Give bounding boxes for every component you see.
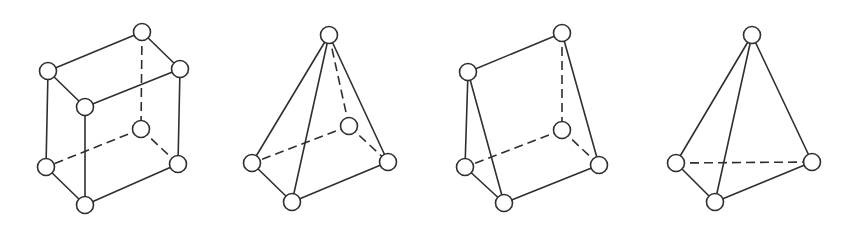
- visible-edge: [292, 35, 329, 202]
- visible-edge: [252, 35, 329, 163]
- hidden-edge: [141, 32, 142, 129]
- visible-edge: [468, 72, 504, 203]
- hidden-edge: [465, 130, 562, 167]
- vertex-node: [134, 24, 151, 41]
- visible-edge: [676, 35, 752, 163]
- edges: [46, 32, 180, 205]
- vertex-node: [496, 195, 513, 212]
- hidden-edge: [676, 162, 812, 163]
- visible-edge: [715, 162, 812, 202]
- vertex-node: [284, 194, 301, 211]
- vertices: [244, 27, 397, 211]
- vertices: [38, 24, 189, 214]
- vertex-node: [341, 118, 358, 135]
- vertex-node: [804, 154, 821, 171]
- visible-edge: [329, 35, 388, 162]
- hidden-edge: [46, 129, 141, 167]
- shape-wedge: [457, 25, 608, 212]
- visible-edge: [465, 72, 468, 167]
- edges: [252, 35, 388, 202]
- vertex-node: [744, 27, 761, 44]
- vertices: [457, 25, 608, 212]
- visible-edge: [504, 165, 599, 203]
- visible-edge: [562, 33, 599, 165]
- vertex-node: [77, 197, 94, 214]
- hidden-edge: [252, 126, 349, 163]
- vertex-node: [380, 154, 397, 171]
- vertex-node: [554, 122, 571, 139]
- shape-hexahedron: [38, 24, 189, 214]
- vertex-node: [321, 27, 338, 44]
- vertices: [668, 27, 821, 211]
- vertex-node: [170, 156, 187, 173]
- vertex-node: [554, 25, 571, 42]
- visible-edge: [48, 32, 142, 71]
- visible-edge: [178, 69, 180, 164]
- vertex-node: [668, 155, 685, 172]
- polyhedra-diagram: [0, 0, 850, 227]
- vertex-node: [172, 61, 189, 78]
- visible-edge: [46, 71, 48, 167]
- visible-edge: [715, 35, 752, 202]
- edges: [676, 35, 812, 202]
- vertex-node: [244, 155, 261, 172]
- visible-edge: [85, 69, 180, 107]
- visible-edge: [85, 164, 178, 205]
- vertex-node: [460, 64, 477, 81]
- shape-pyramid: [244, 27, 397, 211]
- vertex-node: [457, 159, 474, 176]
- vertex-node: [38, 159, 55, 176]
- vertex-node: [40, 63, 57, 80]
- vertex-node: [77, 99, 94, 116]
- vertex-node: [133, 121, 150, 138]
- visible-edge: [468, 33, 562, 72]
- edges: [465, 33, 599, 203]
- visible-edge: [292, 162, 388, 202]
- diagram-canvas: [0, 0, 850, 227]
- vertex-node: [707, 194, 724, 211]
- vertex-node: [591, 157, 608, 174]
- visible-edge: [752, 35, 812, 162]
- hidden-edge: [329, 35, 349, 126]
- shape-tetrahedron: [668, 27, 821, 211]
